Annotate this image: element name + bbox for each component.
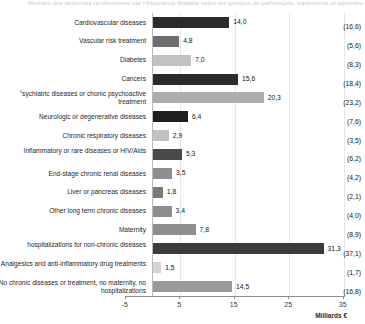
x-tick-label-15: 15: [230, 300, 238, 309]
bar: [153, 92, 264, 103]
x-axis-line: [125, 296, 345, 297]
bar-row: Vascular risk treatment4,8(5,6): [0, 32, 365, 51]
secondary-value-label: (23,2): [343, 99, 361, 107]
bar: [153, 36, 179, 47]
bar-row: Neurologic or degenerative diseases6,4(7…: [0, 107, 365, 126]
x-tick-25: [288, 296, 289, 299]
bar-chart: Montant des depenses remboursees par l'A…: [0, 0, 365, 324]
secondary-value-label: (8,3): [347, 61, 361, 69]
bar: [153, 243, 324, 254]
bar-row: Cardiovascular diseases14,0(16,6): [0, 13, 365, 32]
bar: [153, 281, 232, 292]
bar-value-label: 5,3: [186, 150, 195, 158]
secondary-value-label: (3,5): [347, 137, 361, 145]
x-tick-15: [234, 296, 235, 299]
category-label: End-stage chronic renal diseases: [0, 170, 146, 178]
bar-row: hospitalizations for non-chronic disease…: [0, 239, 365, 258]
bar-row: Other long term chronic diseases3,4(4,0): [0, 202, 365, 221]
bar-value-label: 31,3: [328, 245, 341, 253]
bar-value-label: 14,0: [233, 18, 246, 26]
category-label: °sychiatric diseases or chonic psychoact…: [0, 90, 146, 105]
category-label: Vascular risk treatment: [0, 37, 146, 45]
category-label: Cardiovascular diseases: [0, 19, 146, 27]
bar-row: Liver or pancreas diseases1,8(2,1): [0, 183, 365, 202]
category-label: Chronic respiratory diseases: [0, 132, 146, 140]
secondary-value-label: (8,9): [347, 231, 361, 239]
bar-row: Diabetes7,0(8,3): [0, 51, 365, 70]
bar: [153, 187, 163, 198]
category-label: Diabetes: [0, 56, 146, 64]
bar-value-label: 7,8: [200, 226, 209, 234]
secondary-value-label: (5,6): [347, 42, 361, 50]
bar: [153, 224, 196, 235]
bar: [153, 130, 169, 141]
secondary-value-label: (18,4): [343, 80, 361, 88]
x-tick-label-5: 5: [177, 300, 181, 309]
bar-value-label: 7,0: [195, 56, 204, 64]
bar-row: No chronic diseases or treatment, no mat…: [0, 277, 365, 296]
category-label: Liver or pancreas diseases: [0, 188, 146, 196]
secondary-value-label: (37,1): [343, 250, 361, 258]
category-label: Cancers: [0, 75, 146, 83]
bar-row: End-stage chronic renal diseases3,5(4,2): [0, 164, 365, 183]
secondary-value-label: (2,1): [347, 193, 361, 201]
x-tick-label-35: 35: [339, 300, 347, 309]
bar: [153, 111, 188, 122]
bar-value-label: 1,8: [167, 188, 176, 196]
bar-value-label: 20,3: [268, 94, 281, 102]
bar-value-label: 6,4: [192, 113, 201, 121]
secondary-value-label: (4,0): [347, 212, 361, 220]
secondary-value-label: (7,6): [347, 118, 361, 126]
bar-value-label: 14,5: [236, 283, 249, 291]
secondary-value-label: (16,8): [343, 288, 361, 296]
x-tick-35: [343, 296, 344, 299]
bar: [153, 168, 172, 179]
secondary-value-label: (1,7): [347, 269, 361, 277]
secondary-value-label: (4,2): [347, 174, 361, 182]
bar: [153, 262, 161, 273]
x-tick-label--5: -5: [122, 300, 128, 309]
bar-value-label: 4,8: [183, 37, 192, 45]
x-tick--5: [125, 296, 126, 299]
category-label: Maternity: [0, 226, 146, 234]
x-tick-5: [179, 296, 180, 299]
category-label: Analgesics and anti-inflammatory drug tr…: [0, 260, 146, 268]
category-label: hospitalizations for non-chronic disease…: [0, 241, 146, 249]
category-label: Inflammatory or rare diseases or HIV/Aid…: [0, 147, 146, 155]
secondary-value-label: (6,2): [347, 155, 361, 163]
bar-value-label: 1,5: [165, 264, 174, 272]
bar-value-label: 3,4: [176, 207, 185, 215]
bar-value-label: 15,6: [242, 75, 255, 83]
secondary-value-label: (16,6): [343, 23, 361, 31]
category-label: Other long term chronic diseases: [0, 207, 146, 215]
bar: [153, 74, 238, 85]
category-label: No chronic diseases or treatment, no mat…: [0, 279, 146, 294]
bar-value-label: 2,9: [173, 132, 182, 140]
bar-row: Analgesics and anti-inflammatory drug tr…: [0, 258, 365, 277]
chart-top-caption: Montant des depenses remboursees par l'A…: [28, 0, 365, 8]
bar-row: Inflammatory or rare diseases or HIV/Aid…: [0, 145, 365, 164]
bar-row: Cancers15,6(18,4): [0, 70, 365, 89]
bar-row: °sychiatric diseases or chonic psychoact…: [0, 88, 365, 107]
bar-value-label: 3,5: [176, 169, 185, 177]
bar-row: Maternity7,8(8,9): [0, 221, 365, 240]
bar-row: Chronic respiratory diseases2,9(3,5): [0, 126, 365, 145]
x-axis-title: Milliards €: [315, 311, 347, 320]
bar: [153, 17, 229, 28]
category-label: Neurologic or degenerative diseases: [0, 113, 146, 121]
bar: [153, 149, 182, 160]
bar: [153, 206, 172, 217]
x-tick-label-25: 25: [284, 300, 292, 309]
bar: [153, 55, 191, 66]
